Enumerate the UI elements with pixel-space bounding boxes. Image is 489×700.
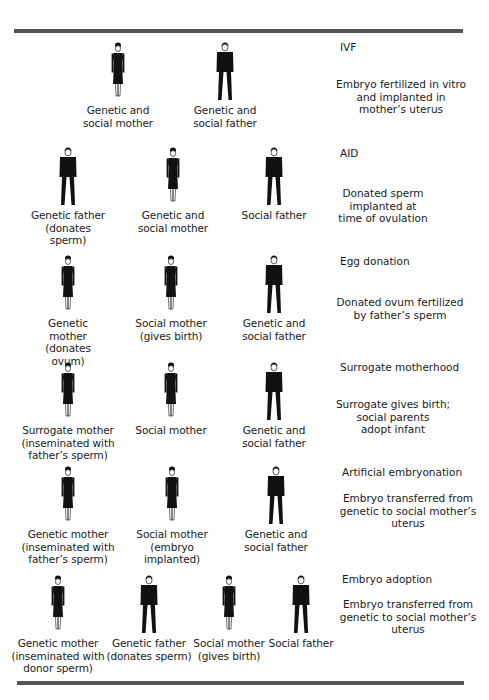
row-description: Donated ovum fertilized by father’s sper…	[330, 296, 470, 321]
male-figure-icon	[290, 575, 312, 635]
figure-male: Genetic and social father	[234, 255, 314, 342]
figure-caption: Genetic and social father	[193, 104, 257, 129]
figure-female: Genetic mother (inseminated with father’…	[18, 466, 118, 566]
bottom-rule	[17, 681, 464, 685]
female-figure-icon	[163, 255, 179, 315]
male-figure-icon	[265, 466, 287, 526]
figure-caption: Genetic and social father	[244, 528, 308, 553]
figure-female: Social mother (embryo implanted)	[122, 466, 222, 566]
figure-female: Genetic and social mother	[133, 147, 213, 234]
figure-caption: Genetic and social mother	[138, 209, 208, 234]
figure-male: Genetic father (donates sperm)	[106, 575, 192, 662]
figure-caption: Social mother (gives birth)	[135, 317, 206, 342]
figure-caption: Social father	[269, 637, 334, 650]
figure-female: Social mother (gives birth)	[131, 255, 211, 342]
row-description: Surrogate gives birth; social parents ad…	[328, 398, 458, 436]
figure-female: Social mother (gives birth)	[192, 575, 266, 662]
figure-female: Genetic mother (donates ovum)	[28, 255, 108, 367]
male-figure-icon	[214, 42, 236, 102]
figure-caption: Genetic mother (inseminated with father’…	[22, 528, 115, 566]
row-description: Embryo transferred from genetic to socia…	[338, 598, 478, 636]
figure-caption: Social mother	[135, 424, 206, 437]
figure-female: Surrogate mother (inseminated with fathe…	[18, 362, 118, 462]
figure-caption: Genetic mother (inseminated with donor s…	[12, 637, 105, 675]
figure-female: Social mother	[131, 362, 211, 437]
male-figure-icon	[263, 147, 285, 207]
figure-male: Genetic and social father	[236, 466, 316, 553]
female-figure-icon	[163, 362, 179, 422]
female-figure-icon	[165, 147, 181, 207]
row-title: IVF	[340, 41, 356, 54]
row-title: Embryo adoption	[342, 573, 432, 586]
male-figure-icon	[138, 575, 160, 635]
figure-caption: Genetic father (donates sperm)	[28, 209, 108, 247]
female-figure-icon	[110, 42, 126, 102]
figure-male: Genetic father (donates sperm)	[28, 147, 108, 247]
figure-caption: Social mother (embryo implanted)	[122, 528, 222, 566]
female-figure-icon	[60, 255, 76, 315]
figure-male: Genetic and social father	[234, 362, 314, 449]
figure-caption: Genetic and social father	[242, 424, 306, 449]
row-title: Artificial embryonation	[342, 466, 462, 479]
row-description: Embryo fertilized in vitro and implanted…	[330, 78, 472, 116]
male-figure-icon	[57, 147, 79, 207]
row-title: Egg donation	[340, 255, 410, 268]
figure-male: Genetic and social father	[185, 42, 265, 129]
row-description: Donated sperm implanted at time of ovula…	[318, 187, 448, 225]
figure-caption: Genetic father (donates sperm)	[106, 637, 191, 662]
row-description: Embryo transferred from genetic to socia…	[338, 492, 478, 530]
figure-caption: Genetic and social father	[242, 317, 306, 342]
figure-caption: Social mother (gives birth)	[193, 637, 264, 662]
female-figure-icon	[60, 362, 76, 422]
figure-female: Genetic mother (inseminated with donor s…	[8, 575, 108, 675]
female-figure-icon	[60, 466, 76, 526]
figure-caption: Genetic and social mother	[83, 104, 153, 129]
figure-caption: Surrogate mother (inseminated with fathe…	[22, 424, 115, 462]
female-figure-icon	[50, 575, 66, 635]
row-title: AID	[340, 147, 358, 160]
female-figure-icon	[164, 466, 180, 526]
row-title: Surrogate motherhood	[340, 361, 459, 374]
figure-female: Genetic and social mother	[78, 42, 158, 129]
figure-male: Social father	[234, 147, 314, 222]
figure-male: Social father	[266, 575, 336, 650]
female-figure-icon	[221, 575, 237, 635]
figure-caption: Social father	[242, 209, 307, 222]
top-rule	[14, 29, 463, 33]
male-figure-icon	[263, 255, 285, 315]
figure-caption: Genetic mother (donates ovum)	[28, 317, 108, 367]
male-figure-icon	[263, 362, 285, 422]
